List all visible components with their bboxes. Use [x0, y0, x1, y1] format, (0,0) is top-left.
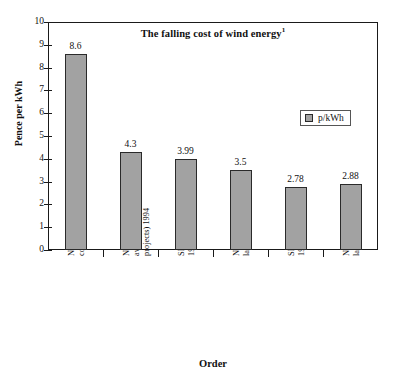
x-tick-mark: [323, 250, 324, 257]
y-tick-mark: [44, 204, 52, 205]
bar-value-label: 8.6: [56, 41, 96, 51]
y-tick-mark: [44, 113, 52, 114]
chart-title-text: The falling cost of wind energy: [141, 28, 282, 39]
legend-label: p/kWh: [318, 113, 344, 123]
y-tick-mark: [44, 182, 52, 183]
y-tick-label: 7: [24, 85, 44, 95]
bar-value-label: 4.3: [111, 139, 151, 149]
bar: [175, 159, 197, 250]
y-tick-label: 5: [24, 131, 44, 141]
x-tick-mark: [213, 250, 214, 257]
bar-value-label: 2.88: [331, 171, 371, 181]
chart-figure: The falling cost of wind energy1 Pence p…: [0, 0, 401, 385]
y-tick-label: 0: [24, 245, 44, 255]
legend: p/kWh: [300, 110, 351, 126]
y-tick-label: 3: [24, 177, 44, 187]
y-tick-label: 9: [24, 40, 44, 50]
bar: [120, 152, 142, 250]
y-tick-label: 2: [24, 199, 44, 209]
y-tick-mark: [44, 68, 52, 69]
y-tick-mark: [44, 45, 52, 46]
x-tick-mark: [158, 250, 159, 257]
y-tick-label-group: 012345678910: [22, 0, 44, 385]
y-tick-mark: [44, 136, 52, 137]
y-tick-mark: [44, 227, 52, 228]
bar-value-label: 3.5: [221, 157, 261, 167]
y-tick-label: 4: [24, 154, 44, 164]
legend-swatch-icon: [305, 114, 313, 122]
x-axis-title: Order: [48, 358, 378, 369]
y-tick-label: 6: [24, 108, 44, 118]
x-tick-mark: [103, 250, 104, 257]
bar: [65, 54, 87, 250]
chart-title-superscript: 1: [282, 26, 286, 34]
chart-title: The falling cost of wind energy1: [48, 26, 378, 39]
bar: [285, 187, 307, 250]
y-tick-mark: [44, 22, 52, 23]
bar-value-label: 3.99: [166, 146, 206, 156]
y-tick-mark: [44, 159, 52, 160]
y-tick-label: 8: [24, 63, 44, 73]
x-tick-mark: [268, 250, 269, 257]
bar-value-label: 2.78: [276, 174, 316, 184]
bar: [230, 170, 252, 250]
plot-area: [48, 22, 378, 250]
y-tick-mark: [44, 90, 52, 91]
y-tick-label: 1: [24, 222, 44, 232]
y-tick-label: 10: [24, 17, 44, 27]
y-tick-mark: [44, 250, 52, 251]
bar: [340, 184, 362, 250]
